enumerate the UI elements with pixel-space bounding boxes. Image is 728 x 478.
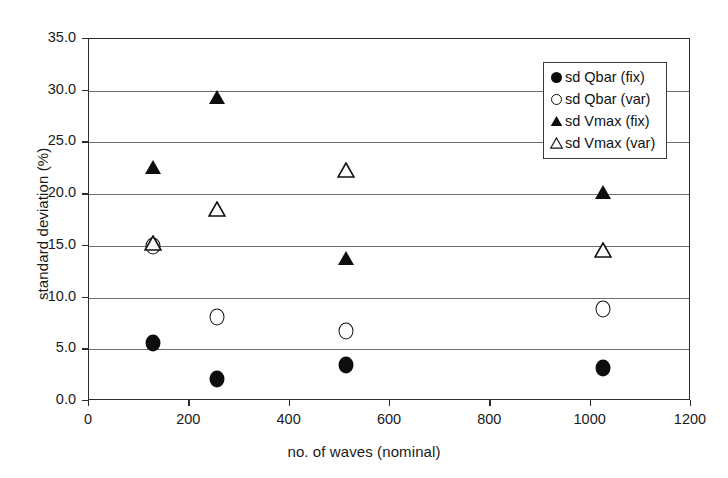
- chart-legend: sd Qbar (fix)sd Qbar (var)sd Vmax (fix)s…: [543, 62, 667, 159]
- data-point-filled-triangle: [337, 250, 355, 266]
- legend-label: sd Vmax (fix): [565, 113, 650, 129]
- x-tick-mark: [690, 400, 691, 406]
- x-tick-label: 600: [359, 411, 419, 427]
- y-tick-label: 5.0: [30, 339, 76, 355]
- legend-item: sd Qbar (fix): [548, 66, 663, 88]
- data-point-filled-triangle: [594, 184, 612, 200]
- chart-figure: standard deviation (%) no. of waves (nom…: [0, 0, 728, 478]
- x-tick-mark: [88, 400, 89, 406]
- x-tick-label: 200: [158, 411, 218, 427]
- x-tick-label: 1200: [660, 411, 720, 427]
- x-tick-mark: [389, 400, 390, 406]
- gridline: [89, 349, 689, 350]
- legend-label: sd Qbar (var): [565, 91, 650, 107]
- x-tick-label: 800: [459, 411, 519, 427]
- data-point-open-triangle: [594, 242, 612, 258]
- y-tick-label: 25.0: [30, 132, 76, 148]
- data-point-open-circle: [595, 300, 610, 317]
- legend-marker-open-triangle-icon: [548, 134, 564, 152]
- data-point-open-triangle: [337, 162, 355, 178]
- y-tick-label: 15.0: [30, 236, 76, 252]
- data-point-filled-circle: [146, 335, 161, 352]
- y-tick-label: 35.0: [30, 29, 76, 45]
- gridline: [89, 298, 689, 299]
- legend-label: sd Vmax (var): [565, 135, 655, 151]
- data-point-open-circle: [210, 309, 225, 326]
- x-tick-mark: [188, 400, 189, 406]
- data-point-filled-circle: [210, 371, 225, 388]
- data-point-open-triangle: [208, 201, 226, 217]
- legend-item: sd Vmax (fix): [548, 110, 663, 132]
- x-tick-mark: [289, 400, 290, 406]
- y-tick-label: 10.0: [30, 288, 76, 304]
- legend-item: sd Qbar (var): [548, 88, 663, 110]
- x-tick-mark: [590, 400, 591, 406]
- y-tick-label: 0.0: [30, 391, 76, 407]
- data-point-filled-circle: [595, 359, 610, 376]
- x-axis-title: no. of waves (nominal): [0, 443, 728, 460]
- x-tick-mark: [489, 400, 490, 406]
- data-point-open-circle: [338, 322, 353, 339]
- x-tick-label: 0: [58, 411, 118, 427]
- legend-marker-open-circle-icon: [548, 90, 564, 108]
- data-point-open-triangle: [144, 235, 162, 251]
- y-axis-title: standard deviation (%): [34, 148, 51, 300]
- x-tick-label: 1000: [560, 411, 620, 427]
- data-point-filled-triangle: [208, 89, 226, 105]
- legend-marker-filled-circle-icon: [548, 68, 564, 86]
- legend-marker-filled-triangle-icon: [548, 112, 564, 130]
- legend-label: sd Qbar (fix): [565, 69, 645, 85]
- x-tick-label: 400: [259, 411, 319, 427]
- data-point-filled-circle: [338, 356, 353, 373]
- data-point-filled-triangle: [144, 159, 162, 175]
- y-tick-label: 30.0: [30, 81, 76, 97]
- y-tick-label: 20.0: [30, 184, 76, 200]
- legend-item: sd Vmax (var): [548, 132, 663, 154]
